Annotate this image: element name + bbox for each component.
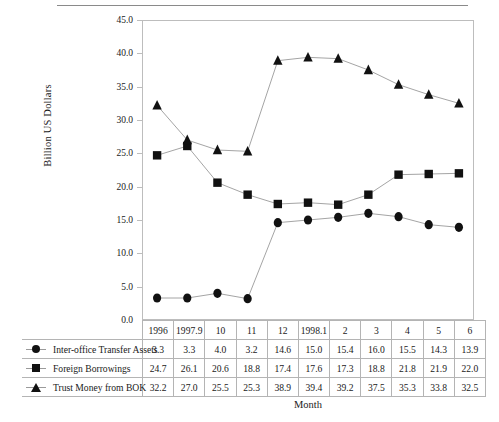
data-point-square [394, 170, 402, 178]
circle-icon [32, 345, 40, 353]
x-axis-title: Month [142, 399, 474, 410]
table-column-header: 10 [205, 321, 236, 340]
data-point-triangle [364, 65, 373, 75]
table-column-header: 5 [423, 321, 454, 340]
y-axis-title: Billion US Dollars [42, 51, 53, 201]
legend-marker-square-icon [26, 363, 46, 373]
table-cell: 25.3 [236, 378, 267, 397]
legend-label: Trust Money from BOK [53, 382, 146, 393]
data-point-triangle [303, 52, 312, 62]
data-point-square [425, 170, 433, 178]
data-point-circle [153, 293, 161, 302]
plot-series-layer [142, 20, 474, 320]
table-cell: 3.3 [174, 340, 205, 359]
table-row: Inter-office Transfer Assets3.33.34.03.2… [22, 340, 485, 359]
legend-label: Foreign Borrowings [53, 363, 131, 374]
table-body: Inter-office Transfer Assets3.33.34.03.2… [22, 340, 485, 397]
y-tick-label: 20.0 [97, 182, 133, 192]
data-point-square [455, 169, 463, 177]
series-line [157, 213, 459, 298]
y-tick-label: 40.0 [97, 48, 133, 58]
series-triangle [152, 52, 463, 156]
legend-marker-circle-icon [26, 344, 46, 354]
legend-entry: Inter-office Transfer Assets [22, 340, 143, 359]
table-column-header: 12 [267, 321, 298, 340]
data-point-circle [425, 220, 433, 229]
top-horizontal-rule [57, 5, 468, 6]
series-square [153, 142, 463, 209]
data-point-square [213, 178, 221, 186]
table-corner-cell [22, 321, 143, 340]
data-point-square [304, 198, 312, 206]
data-point-circle [304, 215, 312, 224]
table-cell: 33.8 [423, 378, 454, 397]
data-point-square [334, 200, 342, 208]
data-point-circle [213, 289, 221, 298]
table-cell: 21.9 [423, 359, 454, 378]
table-cell: 22.0 [454, 359, 485, 378]
data-point-circle [394, 212, 402, 221]
table-cell: 32.2 [143, 378, 174, 397]
data-point-circle [244, 294, 252, 303]
y-tick-label: 10.0 [97, 248, 133, 258]
data-point-triangle [213, 145, 222, 155]
table-cell: 15.0 [298, 340, 329, 359]
table-cell: 21.8 [392, 359, 423, 378]
table-header-row: 19961997.91011121998.123456 [22, 321, 485, 340]
data-point-circle [274, 218, 282, 227]
table-cell: 3.2 [236, 340, 267, 359]
table-column-header: 2 [330, 321, 361, 340]
table-cell: 27.0 [174, 378, 205, 397]
data-point-triangle [152, 100, 161, 110]
table-row: Trust Money from BOK32.227.025.525.338.9… [22, 378, 485, 397]
table-column-header: 1998.1 [298, 321, 329, 340]
legend-label: Inter-office Transfer Assets [53, 344, 158, 355]
legend-entry: Foreign Borrowings [22, 359, 143, 378]
table-cell: 17.6 [298, 359, 329, 378]
table-cell: 24.7 [143, 359, 174, 378]
table-cell: 16.0 [361, 340, 392, 359]
data-point-circle [183, 293, 191, 302]
table-cell: 17.4 [267, 359, 298, 378]
series-line [157, 146, 459, 205]
table-cell: 37.5 [361, 378, 392, 397]
table-column-header: 1997.9 [174, 321, 205, 340]
triangle-icon [31, 383, 41, 392]
table-column-header: 6 [454, 321, 485, 340]
legend-entry: Trust Money from BOK [22, 378, 143, 397]
table-cell: 13.9 [454, 340, 485, 359]
data-point-triangle [333, 53, 342, 63]
data-point-circle [455, 223, 463, 232]
table-column-header: 11 [236, 321, 267, 340]
table-cell: 39.2 [330, 378, 361, 397]
y-tick-label: 25.0 [97, 148, 133, 158]
table-cell: 38.9 [267, 378, 298, 397]
table-cell: 18.8 [361, 359, 392, 378]
square-icon [32, 364, 40, 372]
table-column-header: 3 [361, 321, 392, 340]
y-tick-label: 45.0 [97, 15, 133, 25]
data-point-triangle [243, 146, 252, 156]
y-tick-label: 30.0 [97, 115, 133, 125]
table-cell: 20.6 [205, 359, 236, 378]
table-cell: 39.4 [298, 378, 329, 397]
table-cell: 25.5 [205, 378, 236, 397]
table-cell: 18.8 [236, 359, 267, 378]
y-tick-label: 5.0 [97, 282, 133, 292]
data-point-square [274, 200, 282, 208]
table-cell: 17.3 [330, 359, 361, 378]
table-column-header: 4 [392, 321, 423, 340]
table-cell: 32.5 [454, 378, 485, 397]
legend-marker-triangle-icon [26, 382, 46, 392]
data-table: 19961997.91011121998.123456 Inter-office… [22, 320, 486, 397]
table-row: Foreign Borrowings24.726.120.618.817.417… [22, 359, 485, 378]
y-tick-label: 15.0 [97, 215, 133, 225]
table-cell: 26.1 [174, 359, 205, 378]
table-cell: 14.3 [423, 340, 454, 359]
data-point-square [243, 190, 251, 198]
data-point-circle [364, 209, 372, 218]
table-column-header: 1996 [143, 321, 174, 340]
data-point-square [364, 190, 372, 198]
table-cell: 4.0 [205, 340, 236, 359]
table-cell: 35.3 [392, 378, 423, 397]
